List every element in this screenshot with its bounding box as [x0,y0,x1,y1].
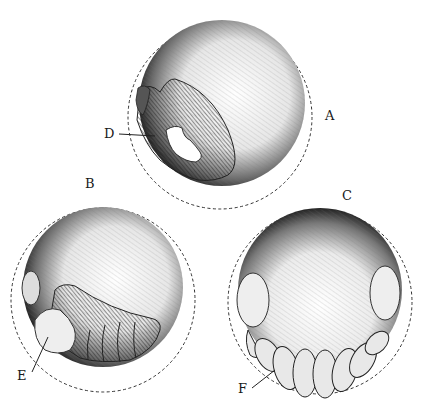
annotation-f-label: F [238,381,247,396]
annotation-f-leader [252,370,275,388]
eye-spot-c-right [370,266,400,320]
panel-a: A D [104,20,335,209]
eye-spot-b [22,271,40,305]
panel-b-label: B [85,176,95,191]
panel-c-label: C [342,188,352,203]
annotation-e-label: E [17,368,27,383]
panel-b: B E [11,176,195,392]
eye-spot-c-left [237,273,269,327]
annotation-d-label: D [104,126,114,141]
panel-c: C F [228,188,412,398]
embryo-illustration: A D B E C [0,0,421,411]
panel-a-label: A [324,108,335,123]
